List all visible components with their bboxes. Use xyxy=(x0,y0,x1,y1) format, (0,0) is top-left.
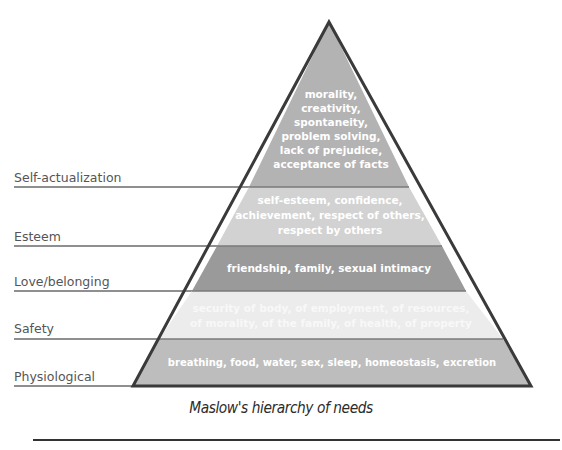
svg-text:acceptance of facts: acceptance of facts xyxy=(273,158,388,170)
layer-text-physiological: breathing, food, water, sex, sleep, home… xyxy=(168,357,496,368)
level-label-esteem: Esteem xyxy=(14,229,61,244)
svg-text:morality,: morality, xyxy=(305,88,358,100)
svg-text:friendship, family, sexual int: friendship, family, sexual intimacy xyxy=(227,262,431,274)
level-label-safety: Safety xyxy=(14,321,55,336)
svg-text:spontaneity,: spontaneity, xyxy=(294,116,368,128)
svg-text:problem solving,: problem solving, xyxy=(281,130,380,142)
svg-text:self-esteem, confidence,: self-esteem, confidence, xyxy=(257,194,402,206)
svg-text:breathing, food, water, sex, s: breathing, food, water, sex, sleep, home… xyxy=(168,357,496,368)
svg-text:of morality, of the family, of: of morality, of the family, of health, o… xyxy=(190,317,472,329)
svg-text:lack of prejudice,: lack of prejudice, xyxy=(280,144,382,156)
layer-safety xyxy=(159,291,503,339)
level-label-love-belonging: Love/belonging xyxy=(14,274,110,289)
level-label-physiological: Physiological xyxy=(14,369,95,384)
maslow-pyramid-diagram: Self-actualization Esteem Love/belonging… xyxy=(0,0,562,400)
svg-text:creativity,: creativity, xyxy=(301,102,361,114)
diagram-caption: Maslow's hierarchy of needs xyxy=(39,398,522,417)
level-label-self-actualization: Self-actualization xyxy=(14,170,121,185)
layer-text-love-belonging: friendship, family, sexual intimacy xyxy=(227,262,431,274)
svg-text:achievement, respect of others: achievement, respect of others, xyxy=(235,209,424,221)
svg-text:respect by others: respect by others xyxy=(278,224,382,236)
svg-text:security of body, of employmen: security of body, of employment, of reso… xyxy=(192,302,469,314)
bottom-divider xyxy=(33,439,560,441)
